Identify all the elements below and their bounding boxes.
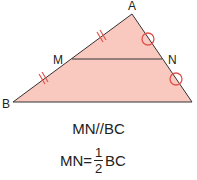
vertex-label-b: B — [2, 98, 10, 110]
fraction-denominator: 2 — [95, 162, 102, 175]
fraction-one-half: 1 2 — [94, 146, 103, 175]
parallel-statement: MN//BC — [0, 120, 197, 137]
formula-left: MN= — [60, 152, 92, 169]
vertex-label-m: M — [53, 54, 63, 66]
fraction-numerator: 1 — [95, 146, 102, 159]
triangle-abc — [13, 14, 192, 102]
midsegment-formula: MN= 1 2 BC — [60, 146, 126, 175]
vertex-label-n: N — [168, 54, 177, 66]
formula-right: BC — [105, 152, 126, 169]
vertex-label-a: A — [128, 0, 136, 12]
